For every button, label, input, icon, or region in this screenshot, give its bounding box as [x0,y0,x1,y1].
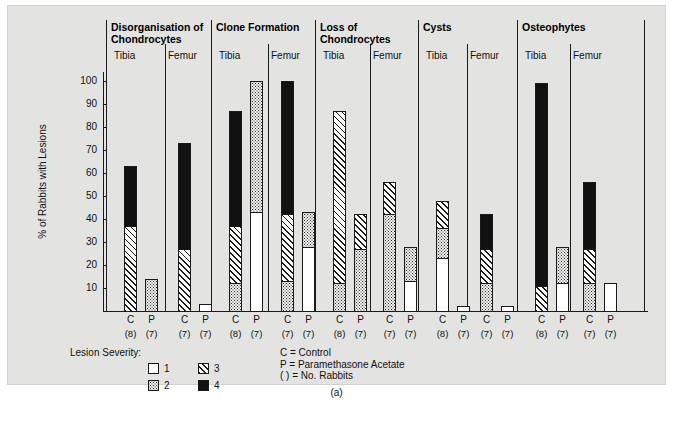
subgroup-separator-1-1 [268,44,269,311]
bar-segment [457,306,470,312]
bar-label-p: P [301,314,317,325]
y-tick-label-90: 90 [64,98,97,109]
bar-label-c: C [332,314,348,325]
bar-label-p: P [603,314,619,325]
y-tick-label-80: 80 [64,121,97,132]
y-tick-label-100: 100 [64,75,97,86]
bar-segment [229,226,242,284]
bar-label-c: C [435,314,451,325]
bar-segment [250,81,263,213]
bar-segment [302,247,315,312]
bar-segment [281,81,294,215]
bar-label-p: P [144,314,160,325]
legend-title: Lesion Severity: [70,347,141,358]
group-title-1: Clone Formation [216,22,316,34]
y-tick-label-30: 30 [64,236,97,247]
bar-label-p: P [353,314,369,325]
bar-count-label: (7) [497,328,519,339]
bar-label-p: P [403,314,419,325]
group-separator-2 [315,20,316,311]
subgroup-label-4-1: Femur [573,50,602,61]
bar-segment [501,306,514,312]
subgroup-separator-3-1 [467,44,468,311]
bar-label-p: P [500,314,516,325]
panel-letter: (a) [8,387,665,398]
bar-count-label: (7) [277,328,299,339]
bar-count-label: (7) [174,328,196,339]
bar-label-c: C [582,314,598,325]
bar-segment [354,249,367,312]
bar-label-p: P [249,314,265,325]
bar-segment [604,283,617,312]
y-axis-title: % of Rabbits with Lesions [37,102,48,262]
bar-segment [250,212,263,312]
bar-label-c: C [177,314,193,325]
y-tick-label-60: 60 [64,167,97,178]
bar-count-label: (8) [120,328,142,339]
bar-segment [535,286,548,312]
group-title-4: Osteophytes [522,22,623,34]
bar-segment [281,281,294,312]
bar-label-p: P [456,314,472,325]
bar-segment [124,166,137,227]
bar-segment [354,214,367,249]
legend-label-3: 3 [214,363,220,374]
bar-segment [583,182,596,250]
legend-note-0: C = Control [280,347,405,359]
y-tick-label-50: 50 [64,190,97,201]
group-title-2: Loss of Chondrocytes [320,22,419,45]
y-tick-label-40: 40 [64,213,97,224]
subgroup-label-3-1: Femur [470,50,499,61]
bar-segment [436,228,449,259]
bar-count-label: (7) [195,328,217,339]
bar-segment [178,143,191,250]
bar-count-label: (7) [350,328,372,339]
legend-note-2: ( ) = No. Rabbits [280,370,405,382]
group-separator-1 [211,20,212,311]
bar-segment [480,214,493,249]
group-title-3: Cysts [423,22,518,34]
bar-segment [383,214,396,312]
bar-count-label: (7) [579,328,601,339]
legend-label-1: 1 [164,363,170,374]
subgroup-label-3-0: Tibia [426,50,447,61]
bar-count-label: (7) [400,328,422,339]
bar-count-label: (7) [476,328,498,339]
bar-segment [302,212,315,247]
legend-swatch-1 [148,363,159,374]
legend-notes: C = ControlP = Paramethasone Acetate( ) … [280,347,405,382]
bar-count-label: (7) [298,328,320,339]
bar-segment [229,111,242,227]
bar-segment [556,283,569,312]
bar-count-label: (7) [600,328,622,339]
bar-segment [199,304,212,312]
subgroup-label-1-1: Femur [271,50,300,61]
bar-segment [583,249,596,284]
y-axis-line [103,72,104,311]
bar-segment [178,249,191,312]
bar-count-label: (7) [141,328,163,339]
bar-segment [404,247,417,282]
bar-segment [556,247,569,285]
bar-label-c: C [123,314,139,325]
bar-segment [124,226,137,312]
bar-count-label: (8) [531,328,553,339]
bar-segment [333,111,346,284]
subgroup-separator-2-1 [370,44,371,311]
group-separator-3 [418,20,419,311]
bar-label-c: C [534,314,550,325]
bar-segment [383,182,396,215]
bar-count-label: (7) [453,328,475,339]
bar-label-c: C [280,314,296,325]
bar-segment [333,283,346,312]
group-separator-0 [106,20,107,311]
subgroup-label-0-0: Tibia [114,50,135,61]
bar-label-p: P [198,314,214,325]
bar-segment [229,283,242,312]
subgroup-label-4-0: Tibia [525,50,546,61]
bar-segment [480,283,493,312]
legend-swatch-3 [198,363,209,374]
bar-count-label: (8) [225,328,247,339]
subgroup-separator-0-1 [165,44,166,311]
bar-label-p: P [555,314,571,325]
